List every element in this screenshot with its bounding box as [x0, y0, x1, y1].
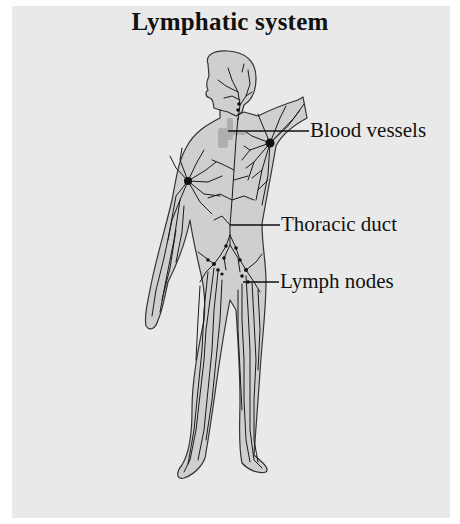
human-body-figure [0, 0, 460, 524]
label-blood-vessels: Blood vessels [310, 120, 426, 141]
body-silhouette [145, 51, 307, 478]
label-thoracic-duct: Thoracic duct [281, 214, 397, 235]
label-lymph-nodes: Lymph nodes [280, 271, 394, 292]
